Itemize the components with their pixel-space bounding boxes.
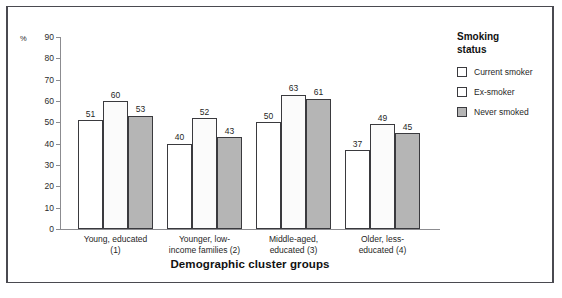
legend-swatch — [457, 87, 467, 97]
category-label-line: Young, educated — [68, 234, 164, 245]
x-axis-title: Demographic cluster groups — [60, 258, 440, 270]
figure-frame: % 9080706050403020100 516053405243506361… — [6, 6, 554, 283]
bar-value-label: 37 — [353, 140, 362, 149]
legend-swatch — [457, 67, 467, 77]
y-axis-tick-mark — [56, 165, 60, 166]
y-axis-tick-mark — [56, 80, 60, 81]
category-label-line: income families (2) — [157, 245, 253, 256]
bar-value-label: 60 — [111, 91, 120, 100]
y-axis-tick-label: 90 — [45, 33, 54, 42]
y-axis-tick-label: 40 — [45, 139, 54, 148]
bar-group: 506361 — [256, 37, 331, 229]
y-axis-tick-label: 0 — [49, 225, 54, 234]
legend-title: Smoking status — [457, 31, 553, 56]
bar-value-label: 61 — [314, 88, 323, 97]
bar: 51 — [78, 120, 103, 229]
y-axis-tick-mark — [56, 37, 60, 38]
bar-group: 405243 — [167, 37, 242, 229]
legend-item: Never smoked — [457, 107, 553, 117]
category-label-line: (1) — [68, 245, 164, 256]
y-axis-tick-mark — [56, 58, 60, 59]
category-label-line: Older, less- — [335, 234, 431, 245]
y-axis-tick-label: 70 — [45, 75, 54, 84]
y-axis-tick-mark — [56, 144, 60, 145]
y-axis-tick-mark — [56, 186, 60, 187]
plot-area: 9080706050403020100 51605340524350636137… — [60, 37, 440, 229]
category-label-line: educated (4) — [335, 245, 431, 256]
bar-value-label: 51 — [86, 110, 95, 119]
legend-label: Never smoked — [474, 108, 529, 117]
legend-item: Current smoker — [457, 67, 553, 77]
y-axis-tick-label: 60 — [45, 97, 54, 106]
legend-items: Current smokerEx-smokerNever smoked — [457, 67, 553, 117]
y-axis-tick-label: 10 — [45, 203, 54, 212]
x-axis-category-label: Young, educated(1) — [68, 234, 164, 255]
y-axis-tick-label: 80 — [45, 54, 54, 63]
category-label-line: Younger, low- — [157, 234, 253, 245]
bar: 37 — [345, 150, 370, 229]
y-axis-tick-mark — [56, 122, 60, 123]
bar-group: 374945 — [345, 37, 420, 229]
bar-value-label: 40 — [175, 133, 184, 142]
x-axis-category-label: Older, less-educated (4) — [335, 234, 431, 255]
bar: 50 — [256, 122, 281, 229]
x-axis-line — [60, 229, 440, 230]
bar-value-label: 63 — [289, 84, 298, 93]
bar: 43 — [217, 137, 242, 229]
y-axis-tick-mark — [56, 229, 60, 230]
bar: 49 — [370, 124, 395, 229]
bar-value-label: 43 — [225, 127, 234, 136]
y-axis-tick-mark — [56, 208, 60, 209]
bar-value-label: 50 — [264, 112, 273, 121]
bar-value-label: 45 — [403, 123, 412, 132]
y-axis-line — [60, 37, 61, 229]
category-label-line: educated (3) — [246, 245, 342, 256]
y-axis-unit-label: % — [20, 35, 27, 43]
bar: 60 — [103, 101, 128, 229]
bar-value-label: 53 — [136, 105, 145, 114]
bar: 40 — [167, 144, 192, 229]
category-label-line: Middle-aged, — [246, 234, 342, 245]
y-axis-tick-label: 50 — [45, 118, 54, 127]
y-axis-tick-label: 30 — [45, 161, 54, 170]
bar-value-label: 49 — [378, 114, 387, 123]
bar: 53 — [128, 116, 153, 229]
x-axis-category-label: Middle-aged,educated (3) — [246, 234, 342, 255]
bar: 45 — [395, 133, 420, 229]
legend-label: Ex-smoker — [474, 88, 515, 97]
legend-item: Ex-smoker — [457, 87, 553, 97]
legend-swatch — [457, 107, 467, 117]
y-axis-tick-label: 20 — [45, 182, 54, 191]
bar-group: 516053 — [78, 37, 153, 229]
legend-label: Current smoker — [474, 68, 533, 77]
x-axis-category-label: Younger, low-income families (2) — [157, 234, 253, 255]
bar: 63 — [281, 95, 306, 229]
bar: 61 — [306, 99, 331, 229]
legend: Smoking status Current smokerEx-smokerNe… — [457, 31, 553, 127]
bar-value-label: 52 — [200, 108, 209, 117]
bar: 52 — [192, 118, 217, 229]
y-axis-tick-mark — [56, 101, 60, 102]
